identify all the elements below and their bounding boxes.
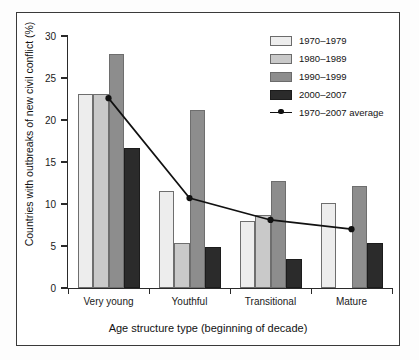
- y-axis-title: Countries with outbreaks of new civil co…: [23, 9, 35, 259]
- y-tick-mark: [61, 203, 67, 204]
- bar-1-1: [78, 94, 94, 288]
- x-tick-label-2: Youthful: [172, 296, 208, 307]
- bar-2-1: [93, 94, 109, 288]
- y-tick-mark: [61, 119, 67, 120]
- y-tick-mark: [61, 287, 67, 288]
- chart-figure: 051015202530 Countries with outbreaks of…: [0, 0, 419, 360]
- legend-swatch-1980-1989: [270, 54, 292, 64]
- x-tick-label-1: Very young: [83, 296, 133, 307]
- legend-item-3: 1990–1999: [270, 68, 396, 85]
- bar-4-1: [124, 148, 140, 288]
- bar-4-2: [205, 247, 221, 288]
- legend-item-4: 2000–2007: [270, 86, 396, 103]
- legend-label-3: 1990–1999: [299, 71, 347, 82]
- x-tick-mark: [392, 289, 393, 294]
- legend-label-5: 1970–2007 average: [299, 107, 384, 118]
- y-tick-mark: [61, 77, 67, 78]
- x-tick-mark: [230, 289, 231, 294]
- legend-label-4: 2000–2007: [299, 89, 347, 100]
- legend-item-1: 1970–1979: [270, 32, 396, 49]
- y-tick-mark: [61, 245, 67, 246]
- chart-legend: 1970–19791980–19891990–19992000–20071970…: [270, 32, 396, 122]
- x-tick-label-4: Mature: [336, 296, 367, 307]
- bar-3-4: [352, 186, 368, 288]
- legend-line-marker: [270, 108, 292, 118]
- legend-item-2: 1980–1989: [270, 50, 396, 67]
- x-tick-mark: [311, 289, 312, 294]
- legend-swatch-2000-2007: [270, 90, 292, 100]
- x-tick-label-3: Transitional: [245, 296, 296, 307]
- x-axis-title: Age structure type (beginning of decade): [16, 322, 400, 334]
- x-tick-mark: [68, 289, 69, 294]
- legend-swatch-1970-1979: [270, 36, 292, 46]
- legend-label-2: 1980–1989: [299, 53, 347, 64]
- legend-swatch-1990-1999: [270, 72, 292, 82]
- bar-2-3: [255, 215, 271, 288]
- y-tick-label: 0: [30, 283, 56, 294]
- bar-3-1: [109, 54, 125, 288]
- bar-1-4: [321, 203, 337, 288]
- bar-1-3: [240, 221, 256, 288]
- y-tick-mark: [61, 35, 67, 36]
- bar-3-2: [190, 110, 206, 288]
- bar-2-2: [174, 243, 190, 288]
- x-tick-mark: [149, 289, 150, 294]
- legend-item-5: 1970–2007 average: [270, 104, 396, 121]
- bar-4-4: [367, 243, 383, 288]
- legend-label-1: 1970–1979: [299, 35, 347, 46]
- y-tick-mark: [61, 161, 67, 162]
- bar-1-2: [159, 191, 175, 288]
- bar-3-3: [271, 181, 287, 288]
- bar-4-3: [286, 259, 302, 288]
